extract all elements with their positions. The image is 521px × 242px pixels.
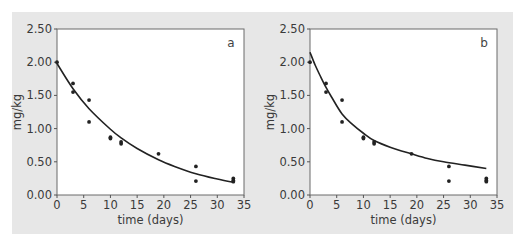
- data-point: [119, 142, 123, 146]
- data-point: [340, 98, 344, 102]
- plot-area: [57, 29, 244, 195]
- x-tick-label: 35: [490, 198, 505, 212]
- y-axis-title: mg/kg: [263, 94, 277, 130]
- y-tick-label: 0.00: [279, 188, 305, 202]
- y-tick-label: 1.00: [279, 122, 305, 136]
- x-tick-label: 10: [356, 198, 371, 212]
- x-axis-title: time (days): [118, 213, 184, 227]
- x-tick-label: 0: [306, 198, 313, 212]
- data-point: [308, 60, 312, 64]
- x-tick-label: 15: [130, 198, 145, 212]
- y-tick-label: 2.00: [26, 55, 52, 69]
- data-point: [71, 82, 75, 86]
- x-tick-label: 20: [157, 198, 172, 212]
- plot-area: [310, 29, 497, 195]
- x-tick-label: 5: [80, 198, 87, 212]
- x-axis: 05101520253035: [306, 195, 504, 212]
- x-tick-label: 15: [383, 198, 398, 212]
- x-tick-label: 10: [103, 198, 118, 212]
- y-tick-label: 1.50: [26, 88, 52, 102]
- y-tick-label: 1.50: [279, 88, 305, 102]
- data-point: [340, 120, 344, 124]
- data-point: [109, 137, 113, 141]
- y-axis: 0.000.501.001.502.002.50: [279, 22, 310, 202]
- y-tick-label: 2.00: [279, 55, 305, 69]
- chart-panel-b: 0.000.501.001.502.002.5005101520253035ti…: [263, 22, 504, 227]
- data-point: [372, 142, 376, 146]
- x-axis: 05101520253035: [53, 195, 251, 212]
- y-tick-label: 2.50: [26, 22, 52, 36]
- x-tick-label: 35: [237, 198, 252, 212]
- x-tick-label: 0: [53, 198, 60, 212]
- data-point: [194, 165, 198, 169]
- data-point: [87, 98, 91, 102]
- x-tick-label: 20: [410, 198, 425, 212]
- data-point: [447, 165, 451, 169]
- figure: 0.000.501.001.502.002.5005101520253035ti…: [0, 0, 521, 242]
- y-axis: 0.000.501.001.502.002.50: [26, 22, 57, 202]
- data-point: [324, 90, 328, 94]
- y-tick-label: 0.50: [279, 155, 305, 169]
- x-axis-title: time (days): [371, 213, 437, 227]
- panel-label: a: [227, 36, 234, 50]
- data-point: [87, 120, 91, 124]
- x-tick-label: 25: [183, 198, 198, 212]
- y-tick-label: 0.00: [26, 188, 52, 202]
- y-axis-title: mg/kg: [10, 94, 24, 130]
- data-point: [157, 152, 161, 156]
- data-point: [194, 179, 198, 183]
- data-point: [55, 60, 59, 64]
- data-point: [447, 179, 451, 183]
- data-point: [410, 152, 414, 156]
- x-tick-label: 25: [436, 198, 451, 212]
- x-tick-label: 5: [333, 198, 340, 212]
- data-point: [71, 90, 75, 94]
- x-tick-label: 30: [463, 198, 478, 212]
- y-tick-label: 1.00: [26, 122, 52, 136]
- data-point: [484, 180, 488, 184]
- x-tick-label: 30: [210, 198, 225, 212]
- panel-label: b: [480, 36, 488, 50]
- chart-panel-a: 0.000.501.001.502.002.5005101520253035ti…: [10, 22, 251, 227]
- data-point: [231, 180, 235, 184]
- data-point: [324, 82, 328, 86]
- y-tick-label: 2.50: [279, 22, 305, 36]
- data-point: [362, 137, 366, 141]
- y-tick-label: 0.50: [26, 155, 52, 169]
